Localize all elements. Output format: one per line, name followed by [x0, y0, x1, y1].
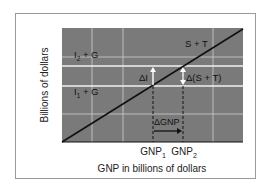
label-delta-i: ΔI: [139, 72, 148, 83]
label-s-plus-t: S + T: [185, 38, 208, 49]
y-axis-label: Billions of dollars: [39, 47, 50, 122]
tick-gnp2: GNP2: [171, 146, 197, 159]
label-i2-g: I2 + G: [74, 49, 98, 62]
label-delta-s-plus-t: Δ(S + T): [186, 72, 221, 83]
label-i1-g: I1 + G: [74, 86, 98, 99]
x-axis-label: GNP in billions of dollars: [98, 163, 207, 174]
tick-gnp1: GNP1: [140, 146, 166, 159]
label-delta-gnp: ΔGNP: [154, 117, 180, 127]
